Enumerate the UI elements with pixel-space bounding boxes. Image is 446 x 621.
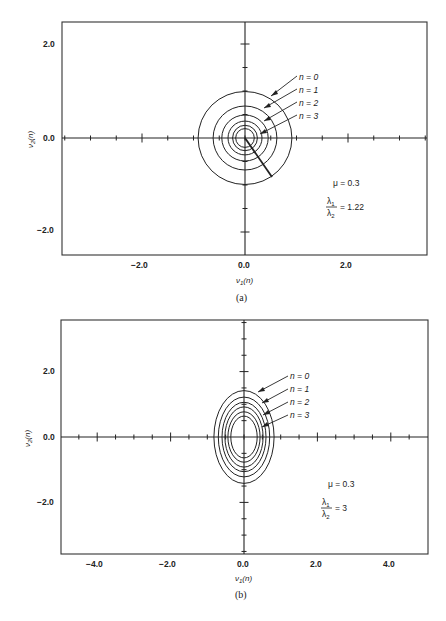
svg-text:= 1.22: = 1.22	[340, 202, 364, 212]
caption-b: (b)	[235, 589, 247, 601]
svg-text:λ2: λ2	[322, 509, 330, 520]
x-axis-label-a: ν1(n)	[236, 276, 253, 286]
figure: n = 0 n = 1 n = 2 n = 3 2.0 0.0 −2.0 −2.…	[0, 0, 446, 621]
svg-text:= 3: = 3	[335, 503, 347, 513]
xtick-label-b-0: 0.0	[237, 559, 249, 569]
panel-b: n = 0 n = 1 n = 2 n = 3 2.0 0.0 −2.0 −4.…	[23, 320, 428, 601]
label-n2-a: n = 2	[299, 98, 318, 108]
mu-annotation-a: μ = 0.3	[333, 178, 360, 188]
ytick-label-b-m2: −2.0	[37, 497, 54, 507]
ytick-label-b-2: 2.0	[43, 366, 55, 376]
y-axis-label-a: ν2(n)	[26, 131, 36, 148]
label-n3-b: n = 3	[290, 410, 309, 420]
eigen-ratio-a: λ1 λ2 = 1.22	[326, 196, 364, 219]
ytick-label-a-m2: −2.0	[37, 225, 54, 235]
y-axis-label-b: ν2(n)	[23, 430, 33, 447]
label-n2-b: n = 2	[290, 397, 309, 407]
xtick-label-b-m2: −2.0	[159, 559, 176, 569]
xtick-label-a-2: 2.0	[340, 260, 352, 270]
ytick-label-a-2: 2.0	[43, 39, 55, 49]
xtick-label-b-4: 4.0	[383, 559, 395, 569]
label-n1-b: n = 1	[290, 384, 309, 394]
svg-text:λ1: λ1	[322, 497, 330, 508]
label-n0-b: n = 0	[290, 371, 309, 381]
svg-text:λ1: λ1	[327, 196, 335, 207]
xtick-label-b-m4: −4.0	[86, 559, 103, 569]
mu-annotation-b: μ = 0.3	[328, 479, 355, 489]
svg-text:λ2: λ2	[327, 208, 335, 219]
label-n1-a: n = 1	[299, 85, 318, 95]
caption-a: (a)	[236, 292, 247, 304]
eigen-ratio-b: λ1 λ2 = 3	[321, 497, 347, 520]
ytick-label-b-0: 0.0	[43, 432, 55, 442]
panel-a: n = 0 n = 1 n = 2 n = 3 2.0 0.0 −2.0 −2.…	[26, 22, 427, 304]
ytick-label-a-0: 0.0	[43, 133, 55, 143]
label-n3-a: n = 3	[299, 111, 318, 121]
x-axis-label-b: ν1(n)	[235, 574, 252, 584]
label-n0-a: n = 0	[299, 72, 318, 82]
xtick-label-a-0: 0.0	[238, 260, 250, 270]
xtick-label-b-2: 2.0	[310, 559, 322, 569]
xtick-label-a-m2: −2.0	[131, 260, 148, 270]
